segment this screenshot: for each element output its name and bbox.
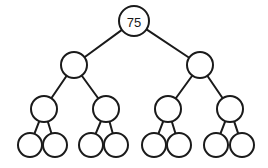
node-circle (31, 96, 57, 122)
tree-root-node: 75 (119, 6, 149, 36)
tree-edge (220, 121, 225, 134)
node-circle (204, 133, 228, 157)
node-circle (104, 133, 128, 157)
node-circle (217, 96, 243, 122)
tree-node (142, 133, 166, 157)
tree-node (43, 133, 67, 157)
node-circle (230, 133, 254, 157)
tree-node (93, 96, 119, 122)
tree-node (204, 133, 228, 157)
node-circle (61, 52, 87, 78)
tree-edge (84, 30, 121, 57)
tree-edge (34, 121, 39, 134)
tree-node (187, 52, 213, 78)
tree-node (79, 133, 103, 157)
tree-edge (96, 121, 101, 134)
node-circle (93, 96, 119, 122)
tree-node (155, 96, 181, 122)
node-label: 75 (127, 15, 141, 30)
tree-node (18, 133, 42, 157)
node-circle (79, 133, 103, 157)
node-circle (155, 96, 181, 122)
tree-edge (48, 121, 52, 133)
tree-edge (234, 121, 238, 133)
tree-edge (82, 76, 99, 99)
tree-node (230, 133, 254, 157)
node-circle (142, 133, 166, 157)
tree-edge (146, 29, 189, 57)
tree-nodes: 75 (18, 6, 254, 157)
tree-edge (158, 121, 163, 134)
node-circle (167, 133, 191, 157)
tree-edge (109, 122, 112, 134)
tree-node (31, 96, 57, 122)
tree-node (104, 133, 128, 157)
tree-edge (51, 76, 66, 99)
tree-edge (176, 76, 193, 99)
tree-edges (34, 29, 238, 134)
tree-node (217, 96, 243, 122)
node-circle (43, 133, 67, 157)
binary-tree-diagram: 75 (0, 0, 268, 168)
tree-edge (207, 76, 222, 99)
node-circle (18, 133, 42, 157)
tree-node (61, 52, 87, 78)
node-circle (187, 52, 213, 78)
tree-edge (172, 121, 176, 133)
tree-node (167, 133, 191, 157)
